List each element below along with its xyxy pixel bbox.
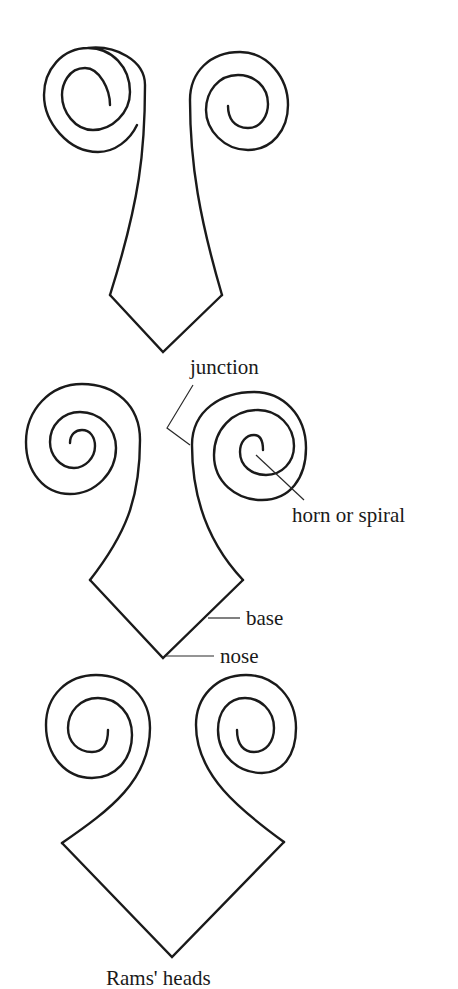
ram-head-1 (44, 48, 288, 352)
left-horn-spiral-icon (46, 675, 150, 843)
left-horn-spiral-icon (26, 384, 140, 580)
figure-caption: Rams' heads (106, 968, 211, 989)
horn-label: horn or spiral (292, 505, 405, 526)
left-horn-spiral-icon (44, 48, 145, 295)
base-outline (62, 842, 284, 957)
base-label: base (246, 608, 283, 629)
right-horn-spiral-icon (190, 52, 288, 295)
junction-leader-line (167, 385, 193, 445)
ram-head-3 (46, 675, 296, 957)
rams-heads-diagram (0, 0, 458, 989)
horn-leader-line (256, 455, 304, 500)
right-horn-spiral-icon (196, 675, 296, 842)
nose-label: nose (220, 646, 259, 667)
junction-label: junction (190, 357, 259, 378)
base-outline (110, 295, 222, 352)
